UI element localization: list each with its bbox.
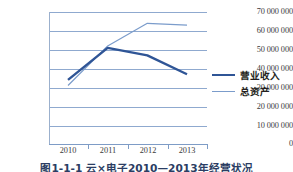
figure-caption: 图1-1-1 云×电子2010—2013年经营状况	[0, 160, 293, 172]
x-axis-tick-label: 2011	[88, 146, 128, 155]
chart-legend: 营业收入 总资产	[212, 68, 293, 100]
line-total-assets	[68, 23, 187, 85]
legend-line-swatch-icon	[212, 74, 235, 76]
x-axis-tick-label: 2013	[167, 146, 207, 155]
legend-item-operating-revenue: 营业收入	[212, 68, 293, 84]
line-operating-revenue	[68, 48, 187, 80]
legend-line-swatch-icon	[212, 91, 235, 92]
legend-item-label: 营业收入	[240, 68, 280, 83]
legend-item-total-assets: 总资产	[212, 84, 293, 100]
x-axis-tick-label: 2010	[48, 146, 88, 155]
x-axis-tick-label: 2012	[128, 146, 168, 155]
legend-item-label: 总资产	[240, 84, 270, 99]
figure-operating-status: 70 000 000 60 000 000 50 000 000 40 000 …	[0, 0, 293, 172]
